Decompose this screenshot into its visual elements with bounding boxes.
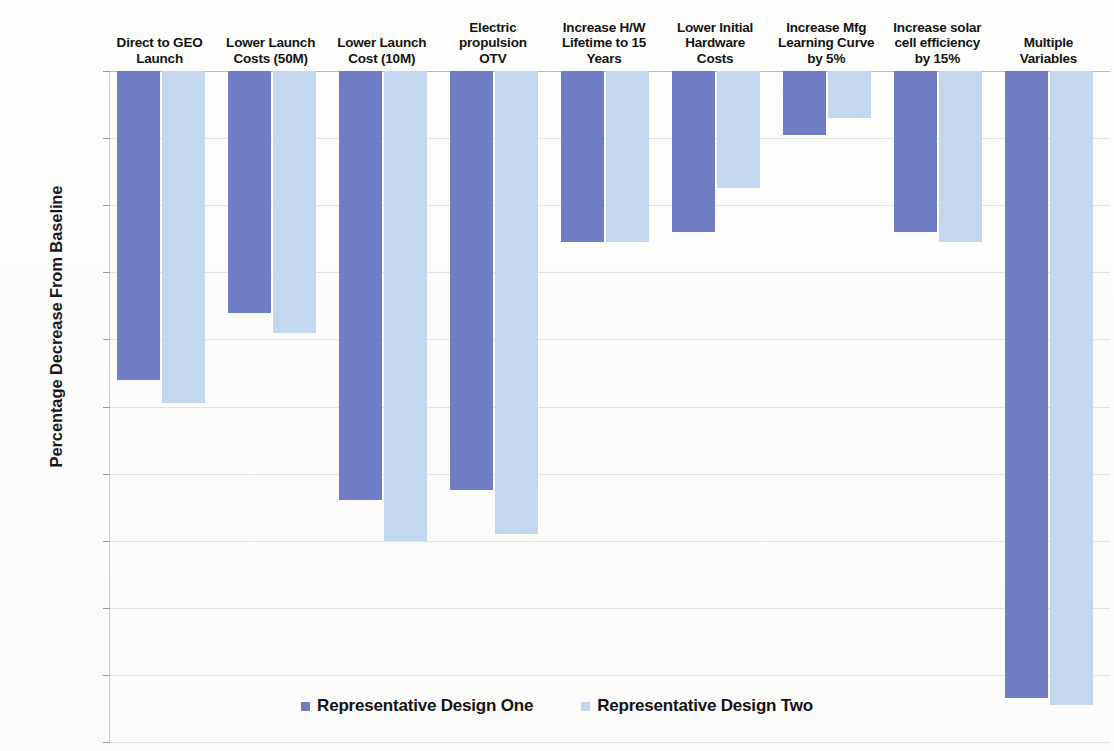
bar[interactable] xyxy=(339,71,382,500)
bar-group[interactable] xyxy=(999,71,1110,742)
category-label-line: OTV xyxy=(437,51,548,67)
y-axis-tick xyxy=(103,272,110,273)
bar-group[interactable] xyxy=(443,71,554,742)
category-label: Increase H/WLifetime to 15Years xyxy=(548,20,659,67)
bar-group[interactable] xyxy=(777,71,888,742)
y-axis-tick xyxy=(103,742,110,743)
category-label-line: Costs (50M) xyxy=(215,51,326,67)
bar-group[interactable] xyxy=(888,71,999,742)
category-label-line: Increase H/W xyxy=(548,20,659,36)
y-axis-tick xyxy=(103,138,110,139)
legend-swatch-icon xyxy=(301,702,310,711)
bar-groups xyxy=(110,71,1110,742)
legend-entry[interactable]: Representative Design Two xyxy=(581,696,813,716)
bar[interactable] xyxy=(450,71,493,490)
bar[interactable] xyxy=(672,71,715,232)
category-label-line: by 5% xyxy=(771,51,882,67)
category-label-line: Years xyxy=(548,51,659,67)
category-label-line: Costs xyxy=(660,51,771,67)
bar-group[interactable] xyxy=(221,71,332,742)
y-axis-tick xyxy=(103,71,110,72)
legend-label: Representative Design Two xyxy=(597,696,813,716)
category-label-line: by 15% xyxy=(882,51,993,67)
bar[interactable] xyxy=(273,71,316,333)
chart-legend: Representative Design OneRepresentative … xyxy=(0,696,1114,716)
plot-area: 0%-10%-20%-30%-40%-50%-60%-70%-80%-90%-1… xyxy=(110,71,1110,742)
category-label: Increase solarcell efficiencyby 15% xyxy=(882,20,993,67)
bar[interactable] xyxy=(1005,71,1048,698)
category-label-line: Cost (10M) xyxy=(326,51,437,67)
legend-swatch-icon xyxy=(581,702,590,711)
gridline xyxy=(110,742,1110,743)
category-label-line: cell efficiency xyxy=(882,35,993,51)
y-axis-title: Percentage Decrease From Baseline xyxy=(47,188,66,468)
category-label-line: Learning Curve xyxy=(771,35,882,51)
bar-chart: Percentage Decrease From Baseline Direct… xyxy=(0,0,1114,751)
bar[interactable] xyxy=(162,71,205,403)
bar[interactable] xyxy=(894,71,937,232)
y-axis-tick xyxy=(103,608,110,609)
bar[interactable] xyxy=(939,71,982,242)
category-label-line: Direct to GEO xyxy=(104,35,215,51)
bar[interactable] xyxy=(1050,71,1093,705)
category-label: MultipleVariables xyxy=(993,35,1104,66)
category-label-line: Increase Mfg xyxy=(771,20,882,36)
category-label: Lower LaunchCosts (50M) xyxy=(215,35,326,66)
category-label: Lower LaunchCost (10M) xyxy=(326,35,437,66)
category-label: Lower InitialHardwareCosts xyxy=(660,20,771,67)
category-label-line: Lower Launch xyxy=(215,35,326,51)
bar[interactable] xyxy=(384,71,427,541)
category-label: Direct to GEOLaunch xyxy=(104,35,215,66)
bar[interactable] xyxy=(828,71,871,118)
bar-group[interactable] xyxy=(110,71,221,742)
y-axis-tick xyxy=(103,474,110,475)
bar[interactable] xyxy=(717,71,760,188)
category-label-line: Lower Initial xyxy=(660,20,771,36)
bar-group[interactable] xyxy=(554,71,665,742)
legend-entry[interactable]: Representative Design One xyxy=(301,696,533,716)
category-label-line: Lower Launch xyxy=(326,35,437,51)
category-label-line: propulsion xyxy=(437,35,548,51)
category-label-line: Multiple xyxy=(993,35,1104,51)
y-axis-tick xyxy=(103,339,110,340)
bar-group[interactable] xyxy=(666,71,777,742)
y-axis-tick xyxy=(103,205,110,206)
category-label-line: Increase solar xyxy=(882,20,993,36)
category-label-line: Lifetime to 15 xyxy=(548,35,659,51)
category-label-line: Electric xyxy=(437,20,548,36)
y-axis-tick xyxy=(103,541,110,542)
category-label-line: Hardware xyxy=(660,35,771,51)
y-axis-tick xyxy=(103,407,110,408)
bar[interactable] xyxy=(228,71,271,313)
bar[interactable] xyxy=(561,71,604,242)
category-label-line: Launch xyxy=(104,51,215,67)
bar[interactable] xyxy=(117,71,160,380)
bar[interactable] xyxy=(606,71,649,242)
category-label: Increase MfgLearning Curveby 5% xyxy=(771,20,882,67)
legend-label: Representative Design One xyxy=(317,696,533,716)
category-label: ElectricpropulsionOTV xyxy=(437,20,548,67)
category-label-line: Variables xyxy=(993,51,1104,67)
bar[interactable] xyxy=(783,71,826,135)
bar[interactable] xyxy=(495,71,538,534)
category-axis-labels: Direct to GEOLaunchLower LaunchCosts (50… xyxy=(110,4,1110,66)
y-axis-tick xyxy=(103,675,110,676)
bar-group[interactable] xyxy=(332,71,443,742)
